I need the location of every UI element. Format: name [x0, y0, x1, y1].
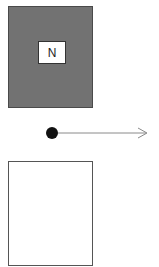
empty-block — [8, 161, 93, 266]
dot-icon — [46, 127, 58, 139]
